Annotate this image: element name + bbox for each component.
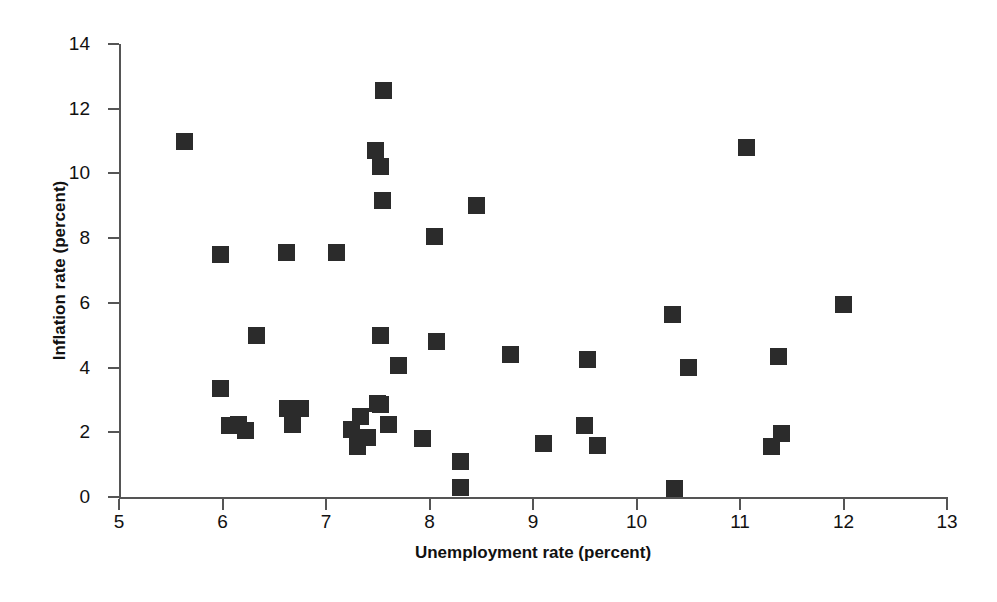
- y-tick-label-text: 4: [79, 358, 100, 377]
- data-point: [328, 244, 345, 261]
- x-tick-label: 9: [513, 512, 553, 531]
- data-point: [535, 435, 552, 452]
- data-point: [502, 346, 519, 363]
- y-tick-mark: [108, 431, 119, 433]
- data-point: [237, 422, 254, 439]
- data-point: [352, 408, 369, 425]
- data-point: [426, 228, 443, 245]
- y-tick-label-text: 8: [79, 228, 100, 247]
- x-tick-label: 13: [927, 512, 967, 531]
- y-tick-mark: [108, 108, 119, 110]
- data-point: [680, 359, 697, 376]
- scatter-plot-figure: Inflation rate (percent) 02468101214 567…: [0, 0, 997, 602]
- y-tick-mark: [108, 43, 119, 45]
- data-point: [468, 197, 485, 214]
- x-tick-label: 10: [617, 512, 657, 531]
- y-tick-mark: [108, 496, 119, 498]
- x-tick-label: 5: [99, 512, 139, 531]
- data-point: [372, 396, 389, 413]
- data-point: [284, 416, 301, 433]
- data-point: [452, 453, 469, 470]
- data-point: [248, 327, 265, 344]
- x-axis-label: Unemployment rate (percent): [119, 543, 947, 563]
- data-point: [835, 296, 852, 313]
- x-tick-mark: [739, 499, 741, 510]
- x-tick-mark: [222, 499, 224, 510]
- data-point: [359, 429, 376, 446]
- data-point: [452, 479, 469, 496]
- y-tick-label-text: 10: [69, 163, 100, 182]
- x-tick-mark: [118, 499, 120, 510]
- x-tick-mark: [843, 499, 845, 510]
- data-point: [372, 327, 389, 344]
- y-tick-label-text: 2: [79, 422, 100, 441]
- data-point: [367, 142, 384, 159]
- data-point: [374, 192, 391, 209]
- data-point: [278, 244, 295, 261]
- x-tick-mark: [636, 499, 638, 510]
- data-point: [414, 430, 431, 447]
- data-point: [576, 417, 593, 434]
- x-tick-label: 11: [720, 512, 760, 531]
- data-point: [380, 416, 397, 433]
- x-tick-mark: [325, 499, 327, 510]
- data-point: [579, 351, 596, 368]
- plot-area: [119, 44, 947, 497]
- x-tick-label: 6: [203, 512, 243, 531]
- data-point: [176, 133, 193, 150]
- x-tick-label: 8: [410, 512, 450, 531]
- x-tick-label: 12: [824, 512, 864, 531]
- data-point: [372, 158, 389, 175]
- data-point: [738, 139, 755, 156]
- data-point: [666, 480, 683, 497]
- y-tick-mark: [108, 367, 119, 369]
- data-point: [212, 380, 229, 397]
- y-tick-label-text: 6: [79, 293, 100, 312]
- y-tick-mark: [108, 172, 119, 174]
- data-point: [589, 437, 606, 454]
- x-tick-mark: [532, 499, 534, 510]
- y-tick-label-text: 0: [79, 487, 100, 506]
- data-point: [770, 348, 787, 365]
- y-tick-label-text: 14: [69, 34, 100, 53]
- y-tick-mark: [108, 237, 119, 239]
- y-tick-label-text: 12: [69, 99, 100, 118]
- data-point: [292, 400, 309, 417]
- data-point: [212, 246, 229, 263]
- x-tick-label: 7: [306, 512, 346, 531]
- data-point: [664, 306, 681, 323]
- data-point: [428, 333, 445, 350]
- y-tick-mark: [108, 302, 119, 304]
- data-point: [375, 82, 392, 99]
- data-point: [773, 425, 790, 442]
- data-point: [390, 357, 407, 374]
- x-tick-mark: [429, 499, 431, 510]
- x-tick-mark: [946, 499, 948, 510]
